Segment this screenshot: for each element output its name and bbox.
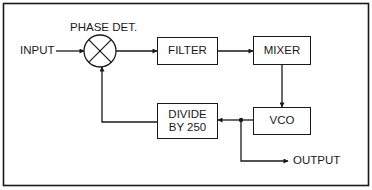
divider-label-line2: BY 250	[169, 121, 207, 134]
divider-block: DIVIDE BY 250	[157, 103, 218, 139]
vco-label: VCO	[270, 114, 295, 127]
mixer-label: MIXER	[264, 44, 300, 57]
phase-detector-label: PHASE DET.	[70, 22, 137, 34]
vco-block: VCO	[253, 107, 311, 135]
output-label: OUTPUT	[293, 155, 340, 167]
filter-block: FILTER	[157, 37, 218, 65]
feedback-line	[102, 67, 157, 122]
filter-label: FILTER	[168, 44, 207, 57]
phase-detector-icon	[84, 35, 116, 67]
mixer-block: MIXER	[253, 36, 311, 65]
divider-label-line1: DIVIDE	[168, 108, 206, 121]
input-label: INPUT	[20, 45, 55, 57]
